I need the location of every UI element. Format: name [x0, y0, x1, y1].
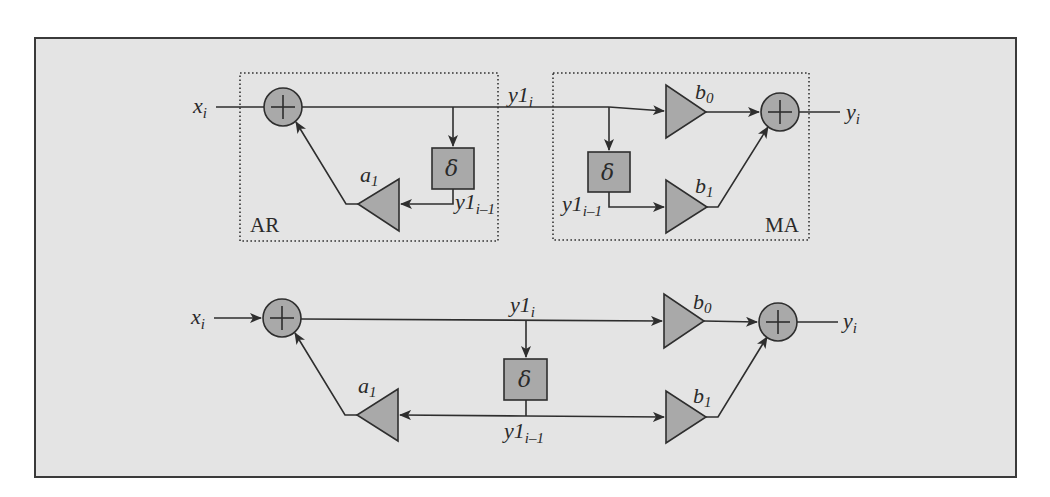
delay-symbol-ma: δ [601, 160, 614, 185]
delayed-label-ma: y1i–1 [560, 191, 602, 219]
bottom-diagram: xi yi y1i y1i–1 δ a1 b0 b1 [190, 289, 857, 446]
delayed-label-ar: y1i–1 [453, 189, 495, 217]
ma-section-label: MA [765, 213, 800, 237]
output-label-top: yi [844, 99, 860, 127]
summing-node-ar [264, 88, 302, 126]
gain-b0-label-bottom: b0 [693, 289, 712, 316]
input-label-bottom: xi [190, 304, 205, 332]
ar-section-label: AR [250, 213, 279, 237]
output-label-bottom: yi [841, 308, 857, 336]
intermediate-label-bottom: y1i [508, 292, 535, 320]
wire-to-b0 [609, 107, 664, 111]
summing-node-output [759, 303, 797, 341]
gain-a1-label-bottom: a1 [358, 373, 377, 400]
intermediate-label-top: y1i [506, 82, 533, 110]
delay-symbol-bottom: δ [518, 367, 531, 392]
summing-node-ma [761, 93, 799, 131]
input-label-top: xi [192, 93, 207, 121]
arma-block-diagram: xi yi y1i y1i–1 y1i–1 δ δ a1 b0 b1 AR MA [0, 0, 1050, 497]
delay-symbol-ar: δ [445, 156, 458, 181]
gain-a1-label-top: a1 [360, 162, 379, 189]
top-diagram: xi yi y1i y1i–1 y1i–1 δ δ a1 b0 b1 AR MA [192, 73, 860, 241]
delayed-label-bottom: y1i–1 [502, 418, 544, 446]
gain-b1-label-bottom: b1 [693, 383, 712, 410]
summing-node-input [263, 299, 301, 337]
gain-b1-label-top: b1 [695, 173, 714, 200]
gain-b0-label-top: b0 [695, 79, 714, 106]
